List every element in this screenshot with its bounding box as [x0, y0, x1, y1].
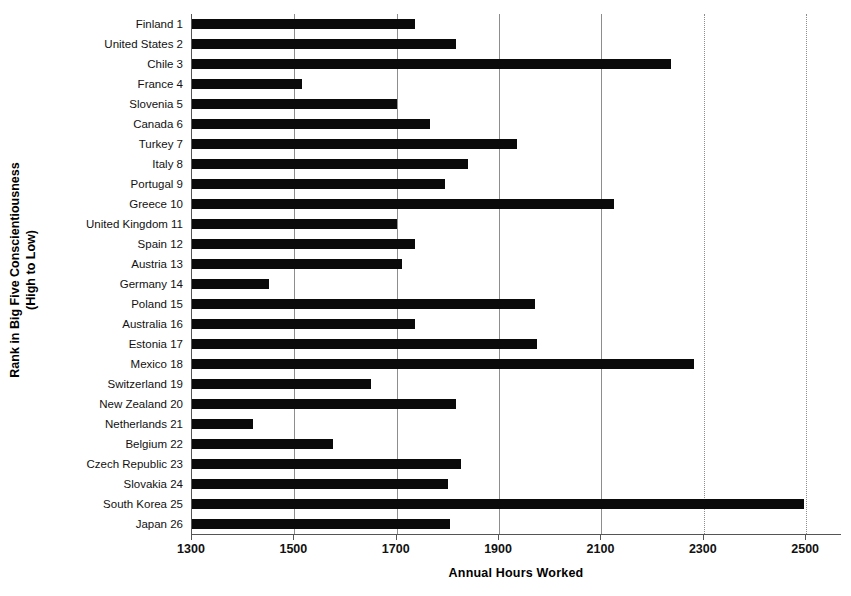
category-label: Greece 10 — [129, 194, 183, 214]
bar-row — [192, 354, 842, 374]
x-axis-tick — [191, 534, 192, 540]
bar — [192, 19, 415, 29]
category-label: United States 2 — [104, 34, 183, 54]
bar — [192, 459, 461, 469]
bar — [192, 39, 456, 49]
category-label: Germany 14 — [120, 274, 183, 294]
bar — [192, 239, 415, 249]
x-axis-tick-label: 1700 — [366, 542, 426, 556]
category-label: Canada 6 — [133, 114, 183, 134]
bar-chart: Rank in Big Five Conscientiousness (High… — [0, 0, 851, 596]
bar — [192, 139, 517, 149]
bar-row — [192, 114, 842, 134]
category-label: France 4 — [138, 74, 183, 94]
x-axis-tick-label: 1300 — [161, 542, 221, 556]
bar-row — [192, 474, 842, 494]
bar-row — [192, 194, 842, 214]
bar-row — [192, 434, 842, 454]
x-axis-line — [191, 534, 841, 535]
bar — [192, 199, 614, 209]
y-axis-title: Rank in Big Five Conscientiousness (High… — [0, 0, 46, 540]
category-label: Mexico 18 — [131, 354, 183, 374]
x-axis-tick-label: 2300 — [673, 542, 733, 556]
category-label: Czech Republic 23 — [86, 454, 183, 474]
bar — [192, 219, 397, 229]
bar — [192, 359, 694, 369]
category-label: Italy 8 — [152, 154, 183, 174]
category-label: Spain 12 — [138, 234, 183, 254]
category-label: Austria 13 — [131, 254, 183, 274]
bar — [192, 259, 402, 269]
category-label: Chile 3 — [147, 54, 183, 74]
bar — [192, 419, 253, 429]
bar-row — [192, 414, 842, 434]
category-label: Turkey 7 — [139, 134, 183, 154]
x-axis-tick-label: 2500 — [775, 542, 835, 556]
category-label: New Zealand 20 — [99, 394, 183, 414]
x-axis-tick — [498, 534, 499, 540]
bar-row — [192, 294, 842, 314]
bar-row — [192, 274, 842, 294]
bar — [192, 119, 430, 129]
bar — [192, 439, 333, 449]
bar — [192, 279, 269, 289]
x-axis-tick — [600, 534, 601, 540]
x-axis-tick — [703, 534, 704, 540]
category-label: Switzerland 19 — [108, 374, 183, 394]
category-label: United Kingdom 11 — [86, 214, 183, 234]
bar — [192, 299, 535, 309]
bar — [192, 379, 371, 389]
category-label: Estonia 17 — [129, 334, 183, 354]
category-label: Slovenia 5 — [129, 94, 183, 114]
category-label: Portugal 9 — [131, 174, 183, 194]
x-axis-title: Annual Hours Worked — [191, 566, 841, 580]
bar — [192, 59, 671, 69]
y-axis-title-line1: Rank in Big Five Conscientiousness — [8, 162, 22, 377]
category-label: Japan 26 — [136, 514, 183, 534]
bar-row — [192, 174, 842, 194]
bar-row — [192, 214, 842, 234]
bar-row — [192, 334, 842, 354]
bar-row — [192, 94, 842, 114]
x-axis-tick-label: 1500 — [263, 542, 323, 556]
bar-row — [192, 374, 842, 394]
x-axis-tick-label: 2100 — [570, 542, 630, 556]
bar — [192, 339, 537, 349]
bar — [192, 79, 302, 89]
x-axis-tick-label: 1900 — [468, 542, 528, 556]
bar-row — [192, 454, 842, 474]
bar — [192, 499, 804, 509]
bar-row — [192, 394, 842, 414]
bar-row — [192, 254, 842, 274]
bar-row — [192, 34, 842, 54]
bar-row — [192, 54, 842, 74]
bar — [192, 99, 397, 109]
category-label: Finland 1 — [136, 14, 183, 34]
category-label: Belgium 22 — [125, 434, 183, 454]
bar — [192, 319, 415, 329]
x-axis-tick — [293, 534, 294, 540]
category-axis-labels: Finland 1United States 2Chile 3France 4S… — [46, 14, 187, 534]
bar-row — [192, 14, 842, 34]
bar-row — [192, 234, 842, 254]
bar-row — [192, 494, 842, 514]
category-label: Australia 16 — [122, 314, 183, 334]
plot-area — [191, 14, 842, 534]
x-axis-tick — [396, 534, 397, 540]
bar-row — [192, 154, 842, 174]
bar — [192, 399, 456, 409]
bar-row — [192, 514, 842, 534]
bar — [192, 519, 450, 529]
bar-row — [192, 314, 842, 334]
x-axis-tick — [805, 534, 806, 540]
bar-row — [192, 74, 842, 94]
category-label: South Korea 25 — [103, 494, 183, 514]
bar — [192, 479, 448, 489]
category-label: Netherlands 21 — [105, 414, 183, 434]
y-axis-title-line2: (High to Low) — [23, 162, 39, 377]
category-label: Slovakia 24 — [124, 474, 183, 494]
bar — [192, 159, 468, 169]
bar — [192, 179, 445, 189]
bar-row — [192, 134, 842, 154]
category-label: Poland 15 — [131, 294, 183, 314]
